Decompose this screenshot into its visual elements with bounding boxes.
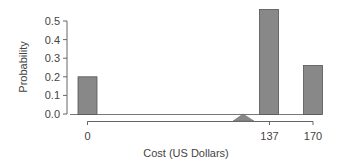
x-axis-label: Cost (US Dollars) [143, 147, 229, 159]
y-axis-label: Probability [17, 41, 29, 93]
bars [78, 10, 323, 115]
y-tick-label: 0.4 [45, 34, 60, 46]
y-tick-label: 0.5 [45, 15, 60, 27]
y-tick-label: 0.1 [45, 89, 60, 101]
y-tick-label: 0.2 [45, 71, 60, 83]
y-tick-label: 0.0 [45, 108, 60, 120]
x-tick-label: 170 [304, 130, 322, 142]
bar-170 [304, 66, 323, 115]
mean-triangle-icon [233, 114, 254, 121]
chart: 0.5 0.4 0.3 0.2 0.1 0.0 Probability 0 13… [0, 0, 342, 165]
x-axis: 0 137 170 Cost (US Dollars) [84, 122, 322, 160]
bar-137 [260, 10, 279, 115]
y-tick-label: 0.3 [45, 52, 60, 64]
x-tick-label: 137 [260, 130, 278, 142]
x-tick-label: 0 [84, 130, 90, 142]
bar-0 [78, 77, 97, 115]
y-axis: 0.5 0.4 0.3 0.2 0.1 0.0 Probability [17, 15, 67, 120]
